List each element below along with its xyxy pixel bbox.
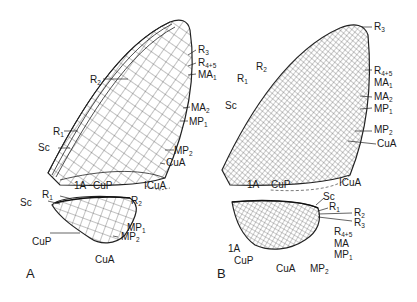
label-b-r1: R1 (237, 74, 248, 87)
label-b-hw-mp1: MP1 (334, 250, 353, 263)
label-a-mp1: MP1 (189, 117, 208, 130)
label-a-cup: CuP (93, 181, 112, 191)
label-b-hw-r3: R3 (354, 218, 365, 231)
label-b-ma1: MA1 (374, 78, 393, 91)
label-a-hw-r1: R1 (42, 190, 53, 203)
label-b-mp2: MP2 (374, 125, 393, 138)
label-a-r1: R1 (53, 127, 64, 140)
label-b-r3: R3 (374, 22, 385, 35)
panel-label-b: B (217, 266, 226, 281)
label-a-hw-cua: CuA (95, 255, 114, 265)
label-b-cua: CuA (377, 139, 396, 149)
label-a-icua: ICuA (144, 181, 166, 191)
label-a-1a: 1A (74, 181, 86, 191)
label-b-hw-cup: CuP (234, 256, 253, 266)
label-a-ma2: MA2 (191, 103, 210, 116)
label-a-hw-mp2: MP2 (121, 232, 140, 245)
label-a-hw-sc: Sc (20, 198, 32, 208)
label-a-hw-cup: CuP (32, 237, 51, 247)
label-a-hw-r2: R2 (131, 196, 142, 209)
label-a-ma1: MA1 (198, 70, 217, 83)
label-a-cua: CuA (166, 158, 185, 171)
label-a-r2: R2 (90, 75, 101, 88)
label-b-hw-ma: MA (334, 239, 349, 249)
panel-b-hindwing (232, 200, 319, 249)
label-a-sc: Sc (38, 143, 50, 156)
label-b-hw-r1: R1 (329, 202, 340, 215)
label-b-hw-1a: 1A (228, 244, 240, 254)
label-b-hw-mp2: MP2 (310, 264, 329, 277)
label-b-1a: 1A (247, 180, 259, 190)
label-b-mp1: MP1 (374, 104, 393, 117)
label-b-cup: CuP (271, 180, 290, 190)
panel-b-forewing (222, 25, 369, 191)
label-b-sc: Sc (225, 101, 237, 111)
label-b-r2: R2 (256, 62, 267, 75)
label-b-hw-cua: CuA (276, 264, 295, 274)
panel-label-a: A (26, 266, 35, 281)
label-b-icua: ICuA (339, 178, 361, 188)
